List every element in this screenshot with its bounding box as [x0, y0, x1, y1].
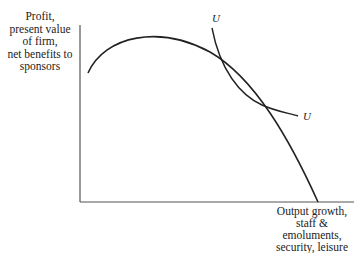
- x-label-line: emoluments,: [268, 229, 356, 241]
- indifference-label-top: U: [212, 12, 220, 24]
- indifference-curve: [212, 28, 298, 116]
- x-axis-label: Output growth, staff & emoluments, secur…: [268, 205, 356, 253]
- opportunity-frontier-curve: [88, 37, 318, 202]
- x-label-line: Output growth,: [268, 205, 356, 217]
- x-label-line: staff &: [268, 217, 356, 229]
- indifference-label-bottom: U: [303, 110, 311, 122]
- x-label-line: security, leisure: [268, 241, 356, 253]
